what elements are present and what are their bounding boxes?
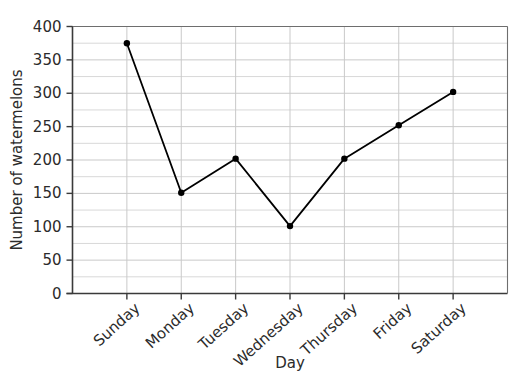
svg-text:300: 300 bbox=[33, 84, 62, 102]
svg-text:50: 50 bbox=[42, 251, 61, 269]
svg-text:150: 150 bbox=[33, 184, 62, 202]
svg-text:0: 0 bbox=[52, 285, 62, 303]
svg-text:250: 250 bbox=[33, 118, 62, 136]
svg-text:200: 200 bbox=[33, 151, 62, 169]
y-axis-title: Number of watermelons bbox=[8, 69, 26, 250]
chart-canvas: 050100150200250300350400 SundayMondayTue… bbox=[0, 0, 522, 383]
svg-text:400: 400 bbox=[33, 18, 62, 36]
svg-text:100: 100 bbox=[33, 218, 62, 236]
x-axis-title: Day bbox=[275, 354, 305, 372]
line-chart: 050100150200250300350400 SundayMondayTue… bbox=[0, 0, 522, 383]
svg-text:350: 350 bbox=[33, 51, 62, 69]
